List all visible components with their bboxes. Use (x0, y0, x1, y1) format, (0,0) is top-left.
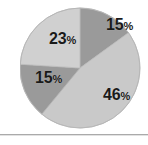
pie-slice-label-3: 23% (49, 31, 76, 47)
pie-slice-value-1: 46 (103, 86, 120, 103)
pie-slice-value-0: 15 (106, 16, 123, 33)
pie-slice-label-0: 15% (106, 17, 133, 33)
pie-slice-percent-3: % (66, 34, 76, 46)
pie-slice-percent-0: % (123, 20, 133, 32)
pie-slice-value-2: 15 (35, 69, 52, 86)
horizontal-divider-shadow (0, 135, 148, 136)
pie-chart-figure: 15% 46% 15% 23% (0, 0, 148, 145)
pie-slice-percent-1: % (120, 90, 130, 102)
pie-chart: 15% 46% 15% 23% (20, 4, 148, 132)
pie-slice-label-2: 15% (35, 70, 62, 86)
pie-slice-percent-2: % (52, 73, 62, 85)
pie-slice-label-1: 46% (103, 87, 130, 103)
pie-slice-value-3: 23 (49, 30, 66, 47)
